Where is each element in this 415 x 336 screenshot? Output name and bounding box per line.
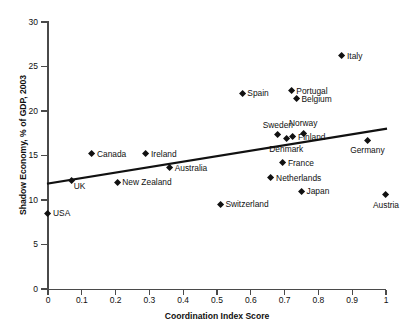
x-axis-tick <box>284 290 285 295</box>
diamond-marker-icon <box>44 210 51 217</box>
y-axis-tick <box>41 288 47 289</box>
data-point-label: Norway <box>289 119 317 127</box>
data-point-label: Germany <box>350 146 384 154</box>
x-axis-tick-label: 1 <box>366 296 406 305</box>
diamond-marker-icon <box>142 150 149 157</box>
diamond-marker-icon <box>364 137 371 144</box>
data-point-label: Austria <box>373 201 399 209</box>
diamond-marker-icon <box>217 201 224 208</box>
data-point-label: France <box>288 159 314 167</box>
diamond-marker-icon <box>382 191 389 198</box>
x-axis-tick <box>115 290 116 295</box>
data-point-label: Netherlands <box>276 174 321 182</box>
data-point-label: Japan <box>307 187 330 195</box>
diamond-marker-icon <box>88 150 95 157</box>
x-axis-tick <box>250 290 251 295</box>
data-point-label: Denmark <box>269 145 303 153</box>
y-axis-tick <box>41 244 47 245</box>
diamond-marker-icon <box>267 174 274 181</box>
data-point-label: Belgium <box>301 95 331 103</box>
diamond-marker-icon <box>114 179 121 186</box>
x-axis-tick <box>318 290 319 295</box>
y-axis-tick <box>41 21 47 22</box>
diamond-marker-icon <box>279 159 286 166</box>
diamond-marker-icon <box>298 187 305 194</box>
x-axis-title: Coordination Index Score <box>48 311 386 321</box>
data-point-label: Italy <box>347 52 362 60</box>
scatter-chart-figure: 051015202530 00.10.20.30.40.50.60.70.80.… <box>0 0 415 336</box>
data-point-label: Switzerland <box>225 200 268 208</box>
y-axis-line <box>47 21 49 290</box>
x-axis-tick <box>216 290 217 295</box>
data-point-label: Spain <box>247 89 268 97</box>
y-axis-tick-label: 30 <box>0 18 38 27</box>
diamond-marker-icon <box>289 133 296 140</box>
y-axis-tick <box>41 110 47 111</box>
x-axis-tick <box>81 290 82 295</box>
diamond-marker-icon <box>239 90 246 97</box>
y-axis-title: Shadow Economy, % of GDP, 2003 <box>18 45 28 245</box>
x-axis-tick <box>352 290 353 295</box>
diamond-marker-icon <box>274 131 281 138</box>
x-axis-tick <box>385 290 386 295</box>
diamond-marker-icon <box>293 95 300 102</box>
diamond-marker-icon <box>338 52 345 59</box>
y-axis-tick <box>41 155 47 156</box>
x-axis-tick <box>183 290 184 295</box>
diamond-marker-icon <box>288 87 295 94</box>
data-point-label: USA <box>53 209 70 217</box>
y-axis-tick <box>41 199 47 200</box>
data-point-label: UK <box>74 182 86 190</box>
data-point-label: Canada <box>97 150 126 158</box>
data-point-label: New Zealand <box>122 178 171 186</box>
x-axis-tick <box>149 290 150 295</box>
diamond-marker-icon <box>166 164 173 171</box>
data-point-label: Australia <box>175 164 208 172</box>
y-axis-tick <box>41 66 47 67</box>
data-point-label: Ireland <box>151 150 177 158</box>
y-axis-tick-label: 0 <box>0 285 38 294</box>
x-axis-tick <box>47 290 48 295</box>
